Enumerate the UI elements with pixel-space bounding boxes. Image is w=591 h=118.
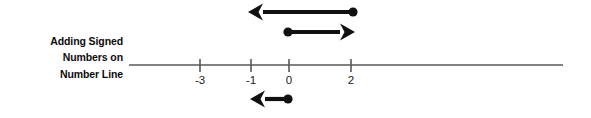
arrow-group [248,4,358,108]
arrow-top-negative-three [248,4,358,21]
number-line-graphics [0,0,591,118]
tick-label: 2 [336,73,366,87]
arrow-head [340,24,355,41]
tick-label: -1 [236,73,266,87]
arrow-middle-positive-two [283,24,355,41]
arrow-start-dot [348,7,357,16]
tick-label: 0 [274,73,304,87]
arrow-head [248,4,263,21]
arrow-bottom-negative-one [250,91,293,108]
arrow-head [250,91,265,108]
arrow-start-dot [283,94,292,103]
number-line-figure: Adding Signed Numbers on Number Line -3-… [0,0,591,118]
tick-label: -3 [185,73,215,87]
arrow-start-dot [283,27,292,36]
